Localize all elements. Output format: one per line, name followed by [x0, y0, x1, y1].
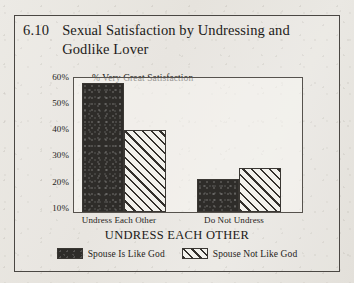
bar-undress-each-other-spouse-not-like-god[interactable] [124, 130, 166, 212]
scanned-page-background: 6.10 Sexual Satisfaction by Undressing a… [0, 0, 354, 283]
bar-do-not-undress-spouse-is-like-god[interactable] [197, 179, 239, 213]
legend-label-spouse-not-like-god: Spouse Not Like God [213, 249, 298, 259]
legend-entry-spouse-is-like-god[interactable]: Spouse Is Like God [57, 248, 165, 259]
x-axis-title: UNDRESS EACH OTHER [15, 228, 339, 243]
figure-frame: 6.10 Sexual Satisfaction by Undressing a… [14, 15, 340, 272]
bar-do-not-undress-spouse-not-like-god[interactable] [239, 168, 281, 212]
y-tick-label: 30% [52, 150, 69, 160]
bar-undress-each-other-spouse-is-like-god[interactable] [82, 83, 124, 212]
y-tick-label: 60% [52, 72, 69, 82]
bars-layer [74, 78, 302, 212]
legend-label-spouse-is-like-god: Spouse Is Like God [88, 249, 165, 259]
chart-legend: Spouse Is Like God Spouse Not Like God [15, 248, 339, 259]
legend-swatch-hatch-icon [182, 248, 208, 259]
figure-number: 6.10 [23, 21, 49, 40]
y-tick-label: 40% [52, 124, 69, 134]
y-tick-label: 10% [52, 203, 69, 213]
legend-swatch-solid-icon [57, 248, 83, 259]
y-tick-label: 20% [52, 177, 69, 187]
legend-entry-spouse-not-like-god[interactable]: Spouse Not Like God [182, 248, 298, 259]
figure-title-row: 6.10 Sexual Satisfaction by Undressing a… [23, 21, 331, 58]
y-tick-label: 50% [52, 98, 69, 108]
figure-title: Sexual Satisfaction by Undressing and Go… [62, 21, 331, 58]
plot-area [73, 77, 303, 213]
category-label-do-not-undress: Do Not Undress [188, 215, 280, 225]
category-label-undress-each-other: Undress Each Other [73, 215, 165, 225]
y-axis-tick-labels: 60% 50% 40% 30% 20% 10% [29, 77, 69, 213]
